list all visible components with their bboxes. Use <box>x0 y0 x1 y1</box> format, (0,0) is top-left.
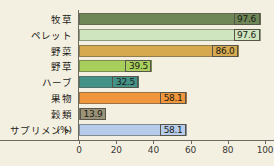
value-label-3: 39.5 <box>125 60 151 72</box>
bar-row: 野菜86.0 <box>0 43 274 59</box>
x-tick <box>228 140 229 144</box>
x-tick-label: 100 <box>257 145 274 155</box>
category-label-3: 野草 <box>51 59 72 73</box>
category-label-5: 果物 <box>51 91 72 105</box>
x-axis-unit-label: (%) <box>56 125 72 135</box>
bar-chart: 牧草97.6ペレット97.6野菜86.0野草39.5ハーブ32.5果物58.1穀… <box>0 0 274 166</box>
value-label-5: 58.1 <box>160 92 186 104</box>
x-tick <box>79 140 80 144</box>
bar-row: 野草39.5 <box>0 58 274 74</box>
value-label-2: 86.0 <box>212 45 238 57</box>
x-tick <box>265 140 266 144</box>
category-label-6: 穀類 <box>51 107 72 121</box>
bar-row: ハーブ32.5 <box>0 74 274 90</box>
bar-row: ペレット97.6 <box>0 27 274 43</box>
value-label-7: 58.1 <box>160 124 186 136</box>
category-label-4: ハーブ <box>42 75 72 89</box>
value-label-1: 97.6 <box>234 29 260 41</box>
bar-row: 牧草97.6 <box>0 11 274 27</box>
x-tick-label: 80 <box>222 145 233 155</box>
category-label-0: 牧草 <box>51 12 72 26</box>
x-tick <box>153 140 154 144</box>
bar-row: 果物58.1 <box>0 90 274 106</box>
category-label-2: 野菜 <box>51 44 72 58</box>
value-label-4: 32.5 <box>112 76 138 88</box>
x-axis-line <box>0 140 274 141</box>
x-tick-label: 0 <box>76 145 82 155</box>
x-tick <box>116 140 117 144</box>
x-tick <box>191 140 192 144</box>
x-tick-label: 20 <box>111 145 122 155</box>
category-label-1: ペレット <box>31 28 72 42</box>
x-tick-label: 60 <box>185 145 196 155</box>
bar-row: サプリメント58.1 <box>0 122 274 138</box>
value-label-6: 13.9 <box>80 108 106 120</box>
bar-row: 穀類13.9 <box>0 106 274 122</box>
x-tick-label: 40 <box>148 145 159 155</box>
value-label-0: 97.6 <box>234 13 260 25</box>
